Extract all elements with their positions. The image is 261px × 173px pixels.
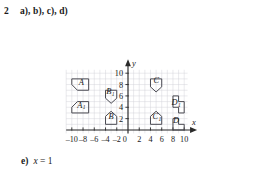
y-axis-tick-label: 8 [119,81,123,90]
x-axis-tick-label: –10 [65,135,78,144]
figure-label-C: C [154,76,160,85]
x-axis-tick-label: –6 [89,135,98,144]
exercise-answer-row: e) x = 1 [0,153,261,169]
figure-label-subscript-C1: 1 [159,116,162,122]
coordinate-plane: xy –10–8–6–4–20246810246810 AA1B1BCC1D1D [0,16,261,156]
x-axis-tick-label: –8 [78,135,87,144]
figure-label-C1: C1 [153,112,162,122]
x-axis-tick-label: 10 [180,135,188,144]
figure-label-subscript-B1: 1 [112,91,115,97]
x-axis-tick-label: –4 [100,135,109,144]
x-axis-label: x [191,117,196,127]
exercise-number: 2 [4,6,20,16]
figure-label-subscript-A1: 1 [83,104,86,110]
x-axis-tick-label: –2 [112,135,121,144]
y-axis-tick-label: 6 [119,92,123,101]
x-axis-tick-label: 0 [123,135,127,144]
x-axis-tick-label: 2 [137,135,141,144]
figure-label-B1: B1 [106,87,115,97]
figure-label-D1: D1 [170,98,180,108]
figure-label-subscript-D1: 1 [178,102,181,108]
figure-label-A: A [78,78,85,87]
y-axis-arrowhead [125,59,131,66]
answer-value: 1 [48,156,53,166]
answer-part-label: e) [21,156,28,166]
x-axis-tick-label: 6 [160,135,164,144]
x-axis-tick-label: 8 [171,135,175,144]
y-axis-tick-label: 10 [115,69,123,78]
x-axis-arrowhead [190,127,197,133]
x-axis-tick-label: 4 [148,135,152,144]
figure-label-D: D [172,116,179,125]
y-axis-tick-label: 2 [119,115,123,124]
answer-equals: = [38,156,48,166]
answer-equation: x = 1 [33,156,52,166]
exercise-parts-label: a), b), c), d) [20,6,68,16]
y-axis-tick-label: 4 [119,103,123,112]
exercise-figure-page: 2 a), b), c), d) xy –10–8–6–4–2024681024… [0,0,261,173]
figure-label-B: B [109,112,114,121]
y-axis-label: y [131,58,136,68]
